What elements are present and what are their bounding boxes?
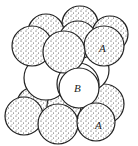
label-b: B (74, 82, 81, 94)
sphere-packing-diagram (0, 0, 138, 146)
top-a-layer-front (12, 26, 124, 73)
label-bottom-a: A (95, 119, 102, 131)
label-top-a: A (99, 42, 106, 54)
